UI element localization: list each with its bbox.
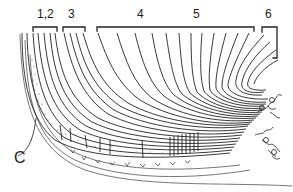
bracket-3 (63, 27, 85, 31)
diagram-drawing (0, 0, 293, 192)
label-group-6: 6 (265, 8, 272, 20)
label-group-5: 5 (193, 8, 200, 20)
fiber-diagram: 1,2 3 4 5 6 C (0, 0, 293, 192)
bracket-1-2 (33, 27, 57, 31)
label-corner-c: C (14, 150, 26, 166)
group-brackets (33, 27, 277, 58)
label-group-4: 4 (137, 8, 144, 20)
label-group-1-2: 1,2 (37, 8, 54, 20)
label-group-3: 3 (68, 8, 75, 20)
bracket-4-5 (97, 27, 254, 31)
